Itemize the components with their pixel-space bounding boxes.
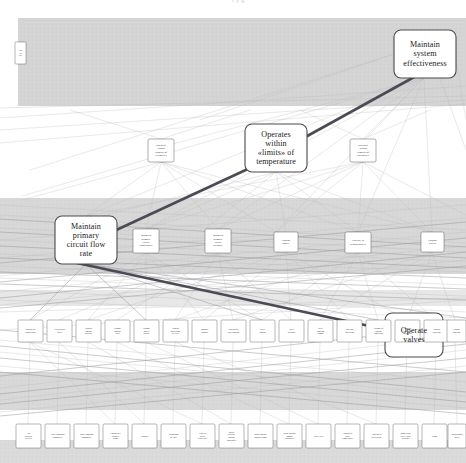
- node-box[interactable]: [308, 320, 333, 342]
- node-box[interactable]: [421, 232, 444, 252]
- node-box[interactable]: [424, 320, 449, 342]
- node-box[interactable]: [279, 320, 304, 342]
- node-box[interactable]: [277, 424, 302, 448]
- node-box[interactable]: [250, 320, 275, 342]
- node-box[interactable]: [447, 320, 466, 342]
- diagram-canvas: t y g: [0, 0, 466, 463]
- node-box[interactable]: [47, 320, 72, 342]
- node-box[interactable]: [161, 424, 186, 448]
- node-box[interactable]: [306, 424, 331, 448]
- node-box[interactable]: [274, 232, 298, 252]
- node-box[interactable]: [192, 320, 217, 342]
- band-fourth: [0, 372, 466, 410]
- node-box[interactable]: [74, 424, 99, 448]
- node-box[interactable]: [133, 229, 159, 253]
- node-box[interactable]: [366, 320, 391, 342]
- node-box[interactable]: [148, 139, 174, 162]
- node-box[interactable]: [448, 424, 466, 448]
- node-box[interactable]: [395, 320, 420, 342]
- node-box[interactable]: [205, 229, 231, 253]
- node-box[interactable]: [132, 424, 157, 448]
- node-box[interactable]: [335, 424, 360, 448]
- node-box[interactable]: [245, 124, 307, 172]
- graph-svg: [0, 0, 466, 463]
- node-box[interactable]: [55, 216, 117, 264]
- node-box[interactable]: [221, 320, 246, 342]
- node-box[interactable]: [248, 424, 273, 448]
- node-box[interactable]: [393, 424, 418, 448]
- node-box[interactable]: [345, 232, 371, 253]
- node-box[interactable]: [16, 424, 41, 448]
- node-box[interactable]: [163, 320, 188, 342]
- node-box[interactable]: [337, 320, 362, 342]
- node-box[interactable]: [45, 424, 70, 448]
- node-box[interactable]: [103, 424, 128, 448]
- node-box[interactable]: [219, 424, 244, 448]
- node-box[interactable]: [15, 42, 26, 64]
- node-box[interactable]: [134, 320, 159, 342]
- node-box[interactable]: [350, 139, 376, 162]
- node-box[interactable]: [394, 30, 456, 78]
- node-box[interactable]: [76, 320, 101, 342]
- node-box[interactable]: [190, 424, 215, 448]
- node-box[interactable]: [105, 320, 130, 342]
- node-box[interactable]: [18, 320, 43, 342]
- node-box[interactable]: [422, 424, 447, 448]
- node-box[interactable]: [364, 424, 389, 448]
